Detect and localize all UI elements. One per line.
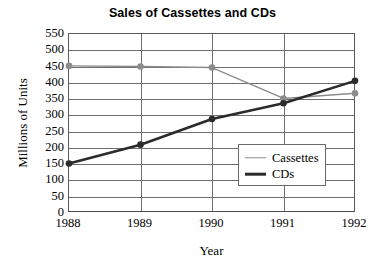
data-point-cds [209,116,216,123]
chart-title: Sales of Cassettes and CDs [0,6,385,20]
x-axis-title: Year [68,243,355,259]
y-tick-label: 350 [32,92,64,104]
chart-container: Sales of Cassettes and CDs Millions of U… [0,0,385,267]
legend-item-cassettes: Cassettes [244,150,325,166]
y-tick-label: 200 [32,141,64,153]
legend-line-cassettes-icon [244,154,267,162]
y-tick-label: 50 [32,190,64,202]
plot-area: Cassettes CDs [68,33,355,212]
legend: Cassettes CDs [238,144,326,186]
data-point-cassettes [209,64,216,71]
data-point-cds [66,160,73,167]
series-lines [69,34,356,213]
data-point-cds [352,78,359,85]
x-tick-label: 1991 [253,216,313,231]
x-tick-label: 1990 [181,216,241,231]
y-tick-label: 450 [32,60,64,72]
legend-line-cds-icon [244,170,267,178]
x-axis-tick-labels: 19881989199019911992 [68,216,355,236]
y-tick-label: 100 [32,173,64,185]
y-tick-label: 300 [32,108,64,120]
y-tick-label: 400 [32,76,64,88]
legend-item-cds: CDs [244,166,325,182]
x-tick-label: 1989 [110,216,170,231]
y-tick-label: 500 [32,43,64,55]
data-point-cassettes [137,63,144,70]
y-tick-label: 550 [32,27,64,39]
x-tick-label: 1992 [324,216,384,231]
legend-label-cassettes: Cassettes [267,151,319,166]
data-point-cassettes [66,63,73,70]
y-tick-label: 250 [32,125,64,137]
y-tick-label: 150 [32,157,64,169]
legend-label-cds: CDs [267,167,294,182]
y-axis-tick-labels: 550500450400350300250200150100500 [30,33,64,212]
data-point-cds [280,100,287,107]
data-point-cassettes [352,90,359,97]
x-tick-label: 1988 [38,216,98,231]
y-axis-title: Millions of Units [15,38,31,208]
data-point-cds [137,141,144,148]
